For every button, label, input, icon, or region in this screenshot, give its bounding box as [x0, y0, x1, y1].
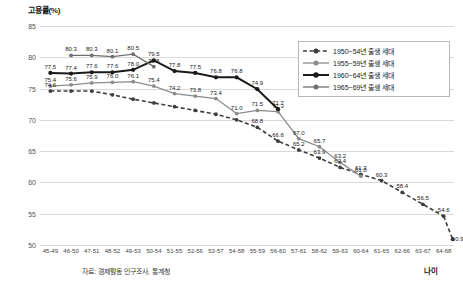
- x-axis-tick-label: 47-51: [84, 248, 99, 254]
- y-axis-tick-label: 80: [28, 54, 36, 61]
- legend-item-label: 1955~59년 출생 세대: [333, 58, 394, 68]
- gridline: [40, 245, 454, 246]
- series-marker: [90, 70, 94, 74]
- series-marker: [451, 237, 455, 241]
- legend-item-label: 1960~64년 출생 세대: [333, 70, 394, 80]
- series-marker: [338, 166, 342, 170]
- series-marker: [193, 71, 197, 75]
- series-marker: [173, 92, 177, 96]
- source-note: 자료: 경제활동 인구조사, 통계청: [82, 266, 170, 276]
- x-axis-tick-label: 51-55: [167, 248, 182, 254]
- y-axis-tick-label: 65: [28, 148, 36, 155]
- series-marker: [69, 83, 73, 87]
- series-marker: [69, 54, 73, 58]
- legend-item[interactable]: 1965~69년 출생 세대: [303, 81, 445, 93]
- y-axis-title: 고용률(%): [28, 4, 60, 15]
- chart-legend: 1950~54년 출생 세대1955~59년 출생 세대1960~64년 출생 …: [298, 41, 450, 97]
- series-marker: [193, 94, 197, 98]
- series-marker: [152, 58, 156, 62]
- x-axis-tick-label: 54-58: [229, 248, 244, 254]
- x-axis-tick-label: 64-68: [436, 248, 451, 254]
- series-marker: [152, 65, 156, 69]
- series-marker: [255, 87, 259, 91]
- series-marker: [90, 89, 94, 93]
- x-axis-tick-label: 52-56: [188, 248, 203, 254]
- series-marker: [359, 174, 363, 178]
- x-axis-tick-label: 56-60: [270, 248, 285, 254]
- legend-item-label: 1950~54년 출생 세대: [333, 46, 394, 56]
- series-marker: [152, 84, 156, 88]
- series-marker: [48, 71, 52, 75]
- series-marker: [131, 97, 135, 101]
- x-axis-tick-label: 57-61: [291, 248, 306, 254]
- series-marker: [297, 137, 301, 141]
- series-marker: [173, 105, 177, 109]
- y-axis-tick-label: 85: [28, 23, 36, 30]
- series-marker: [318, 145, 322, 149]
- series-marker: [318, 156, 322, 160]
- series-marker: [90, 54, 94, 58]
- series-marker: [400, 191, 404, 195]
- series-marker: [276, 139, 280, 143]
- series-marker: [380, 179, 384, 183]
- x-axis-tick-label: 62-66: [395, 248, 410, 254]
- x-axis-tick-label: 48-52: [105, 248, 120, 254]
- legend-key-icon: [303, 70, 329, 80]
- legend-key-icon: [303, 58, 329, 68]
- y-axis-tick-label: 60: [28, 179, 36, 186]
- x-axis-tick-label: 53-57: [208, 248, 223, 254]
- series-marker: [172, 69, 176, 73]
- series-marker: [255, 109, 259, 113]
- series-marker: [131, 68, 135, 72]
- x-axis-tick-label: 60-64: [353, 248, 368, 254]
- series-marker: [276, 107, 280, 111]
- x-axis-tick-label: 46-50: [63, 248, 78, 254]
- y-axis-tick-label: 55: [28, 210, 36, 217]
- x-axis-tick-label: 50-54: [146, 248, 161, 254]
- series-marker: [48, 84, 52, 88]
- legend-item[interactable]: 1955~59년 출생 세대: [303, 57, 445, 69]
- series-marker: [152, 101, 156, 105]
- x-axis-tick-label: 55-59: [250, 248, 265, 254]
- series-marker: [131, 52, 135, 56]
- series-marker: [214, 112, 218, 116]
- series-marker: [90, 81, 94, 85]
- x-axis-tick-label: 45-49: [43, 248, 58, 254]
- y-axis-tick-label: 50: [28, 242, 36, 249]
- series-marker: [214, 97, 218, 101]
- legend-item-label: 1965~69년 출생 세대: [333, 82, 394, 92]
- x-axis-title: 나이: [424, 265, 438, 276]
- series-marker: [214, 75, 218, 79]
- series-marker: [297, 148, 301, 152]
- y-axis-tick-label: 70: [28, 116, 36, 123]
- series-line: [50, 91, 443, 216]
- legend-key-icon: [303, 46, 329, 56]
- series-marker: [255, 125, 259, 129]
- series-marker: [421, 202, 425, 206]
- x-axis-tick-label: 49-53: [125, 248, 140, 254]
- series-marker: [235, 75, 239, 79]
- series-line: [50, 60, 278, 109]
- series-marker: [69, 89, 73, 93]
- series-marker: [111, 93, 115, 97]
- x-axis-tick-label: 63-67: [415, 248, 430, 254]
- series-marker: [69, 71, 73, 75]
- series-marker: [111, 80, 115, 84]
- series-marker: [111, 55, 115, 59]
- y-axis-tick-label: 75: [28, 85, 36, 92]
- series-marker: [48, 89, 52, 93]
- series-marker: [110, 70, 114, 74]
- legend-item[interactable]: 1950~54년 출생 세대: [303, 45, 445, 57]
- series-marker: [131, 80, 135, 84]
- series-marker: [235, 112, 239, 116]
- x-axis-tick-label: 59-63: [332, 248, 347, 254]
- legend-key-icon: [303, 82, 329, 92]
- series-marker: [338, 161, 342, 165]
- legend-item[interactable]: 1960~64년 출생 세대: [303, 69, 445, 81]
- series-marker: [235, 118, 239, 122]
- series-line: [444, 216, 453, 239]
- series-marker: [193, 109, 197, 113]
- x-axis-tick-label: 58-62: [312, 248, 327, 254]
- x-axis-tick-label: 61-65: [374, 248, 389, 254]
